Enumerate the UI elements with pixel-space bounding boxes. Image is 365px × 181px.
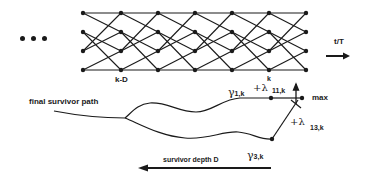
trellis-node xyxy=(267,68,271,72)
trellis-edge xyxy=(269,13,306,51)
trellis-node xyxy=(304,30,308,34)
trellis-node xyxy=(267,11,271,15)
trellis-node xyxy=(81,49,85,53)
label-max: max xyxy=(312,94,328,102)
trellis-edge xyxy=(232,51,269,70)
trellis-edge xyxy=(158,32,195,70)
trellis-node xyxy=(267,49,271,53)
gamma-symbol: γ xyxy=(247,149,254,162)
trellis-node xyxy=(119,30,123,34)
trellis-edge xyxy=(232,32,269,70)
trellis-edge xyxy=(83,32,121,70)
trellis-edge xyxy=(269,13,306,32)
label-k-minus-d: k-D xyxy=(115,76,128,84)
trellis-node xyxy=(304,68,308,72)
trellis-edge xyxy=(83,51,121,70)
trellis-nodes xyxy=(81,11,308,72)
label-time-axis: t/T xyxy=(334,38,344,46)
trellis-edge xyxy=(121,51,158,70)
gamma-symbol: γ xyxy=(228,86,235,99)
trellis-node xyxy=(193,30,197,34)
trellis-edge xyxy=(195,13,232,51)
gamma-1-subscript: 1,k xyxy=(235,90,245,97)
label-k-sup: k xyxy=(267,75,271,82)
trellis-node xyxy=(156,30,160,34)
trellis-diagram xyxy=(0,0,365,181)
trellis-edge xyxy=(121,32,158,70)
time-arrow-icon xyxy=(326,53,350,60)
trellis-node xyxy=(230,68,234,72)
upper-survivor-branch xyxy=(125,98,271,118)
trellis-node xyxy=(304,49,308,53)
trellis-node xyxy=(193,49,197,53)
node-max xyxy=(300,96,304,100)
trellis-edge xyxy=(269,32,306,70)
trellis-node xyxy=(304,11,308,15)
trellis-edge xyxy=(232,13,269,32)
node-state-1 xyxy=(269,96,273,100)
trellis-node xyxy=(156,11,160,15)
final-survivor-path-curve xyxy=(54,111,125,118)
trellis-edge xyxy=(158,51,195,70)
trellis-node xyxy=(119,49,123,53)
compare-select-icon xyxy=(291,84,301,108)
label-lambda-13-subscript: 13,k xyxy=(310,124,324,131)
trellis-node xyxy=(119,68,123,72)
trellis-edge xyxy=(195,51,232,70)
trellis-node xyxy=(230,49,234,53)
node-state-3 xyxy=(270,137,274,141)
trellis-node xyxy=(119,11,123,15)
lower-survivor-branch xyxy=(125,118,272,139)
trellis-edge xyxy=(269,51,306,70)
trellis-node xyxy=(81,30,85,34)
trellis-node xyxy=(193,68,197,72)
trellis-edge xyxy=(83,13,121,32)
trellis-edge xyxy=(121,13,158,32)
label-lambda-11-subscript: 11,k xyxy=(272,87,285,94)
trellis-edge xyxy=(158,13,195,32)
trellis-edge xyxy=(121,13,158,51)
survivor-depth-arrow-icon xyxy=(138,165,271,172)
trellis-node xyxy=(81,11,85,15)
trellis-edge xyxy=(195,13,232,32)
trellis-edge xyxy=(83,13,121,51)
trellis-node xyxy=(193,11,197,15)
trellis-node xyxy=(156,49,160,53)
label-plus-lambda-13: +λ xyxy=(290,117,305,127)
label-gamma-1k: γ1,k xyxy=(228,83,244,99)
label-final-survivor-path: final survivor path xyxy=(29,98,98,106)
trellis-edge xyxy=(195,32,232,70)
trellis-edges xyxy=(83,13,306,70)
trellis-node xyxy=(267,30,271,34)
trellis-node xyxy=(81,68,85,72)
trellis-node xyxy=(230,30,234,34)
trellis-edge xyxy=(158,13,195,51)
gamma-3-subscript: 3,k xyxy=(254,153,264,160)
trellis-node xyxy=(230,11,234,15)
trellis-node xyxy=(156,68,160,72)
label-plus-lambda-11: +λ xyxy=(253,83,268,93)
trellis-edge xyxy=(232,13,269,51)
label-gamma-3k: γ3,k xyxy=(247,146,263,162)
label-survivor-depth: survivor depth D xyxy=(163,156,219,163)
